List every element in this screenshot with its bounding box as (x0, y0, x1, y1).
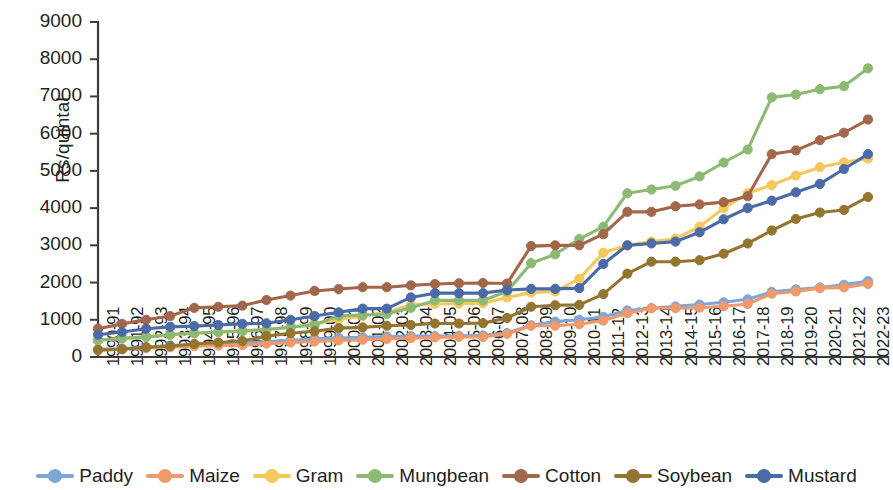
data-point (214, 302, 223, 311)
data-point (382, 321, 391, 330)
data-point (623, 207, 632, 216)
data-point (430, 289, 439, 298)
data-point (647, 304, 656, 313)
legend-item-paddy[interactable]: Paddy (36, 465, 133, 487)
data-point (839, 205, 848, 214)
data-point (286, 291, 295, 300)
data-point (358, 335, 367, 344)
legend-item-soybean[interactable]: Soybean (614, 465, 732, 487)
legend-swatch-icon (356, 469, 394, 483)
data-point (791, 171, 800, 180)
data-point (142, 324, 151, 333)
data-point (839, 128, 848, 137)
data-point (478, 319, 487, 328)
data-point (575, 241, 584, 250)
data-point (142, 315, 151, 324)
data-point (719, 302, 728, 311)
data-point (623, 241, 632, 250)
data-point (695, 256, 704, 265)
data-point (719, 158, 728, 167)
legend-item-mustard[interactable]: Mustard (745, 465, 857, 487)
data-point (117, 345, 126, 354)
legend-label: Maize (189, 465, 240, 487)
legend-dot (757, 469, 771, 483)
data-point (430, 279, 439, 288)
data-point (623, 189, 632, 198)
data-point (767, 226, 776, 235)
data-point (767, 289, 776, 298)
data-point (93, 330, 102, 339)
data-point (791, 214, 800, 223)
legend-swatch-icon (745, 469, 783, 483)
data-point (623, 309, 632, 318)
data-point (791, 146, 800, 155)
data-point (406, 334, 415, 343)
legend-swatch-icon (614, 469, 652, 483)
data-point (334, 336, 343, 345)
data-point (334, 308, 343, 317)
data-point (454, 319, 463, 328)
legend-label: Soybean (657, 465, 732, 487)
data-point (815, 136, 824, 145)
data-point (286, 329, 295, 338)
data-point (599, 289, 608, 298)
data-point (767, 93, 776, 102)
legend-dot (626, 469, 640, 483)
data-point (743, 239, 752, 248)
data-point (166, 311, 175, 320)
data-point (527, 302, 536, 311)
data-point (478, 278, 487, 287)
legend-dot (48, 469, 62, 483)
data-point (190, 303, 199, 312)
data-point (671, 304, 680, 313)
data-point (695, 200, 704, 209)
legend-item-cotton[interactable]: Cotton (502, 465, 601, 487)
legend-label: Gram (296, 465, 344, 487)
data-point (406, 281, 415, 290)
legend-dot (514, 469, 528, 483)
data-point (743, 299, 752, 308)
data-point (599, 230, 608, 239)
data-point (839, 283, 848, 292)
legend-item-maize[interactable]: Maize (146, 465, 240, 487)
data-point (502, 329, 511, 338)
data-point (527, 241, 536, 250)
data-point (478, 332, 487, 341)
data-point (142, 343, 151, 352)
data-point (527, 284, 536, 293)
data-point (190, 339, 199, 348)
legend-dot (265, 469, 279, 483)
data-point (839, 82, 848, 91)
data-point (863, 279, 872, 288)
data-point (815, 208, 824, 217)
legend-swatch-icon (253, 469, 291, 483)
legend-swatch-icon (36, 469, 74, 483)
data-point (310, 311, 319, 320)
data-point (575, 300, 584, 309)
data-point (430, 333, 439, 342)
plot-area (0, 0, 893, 490)
data-point (166, 342, 175, 351)
data-point (671, 257, 680, 266)
legend-label: Mustard (788, 465, 857, 487)
data-point (719, 198, 728, 207)
legend-item-mungbean[interactable]: Mungbean (356, 465, 489, 487)
data-point (358, 283, 367, 292)
data-point (767, 196, 776, 205)
data-point (575, 320, 584, 329)
data-point (214, 320, 223, 329)
data-point (238, 301, 247, 310)
data-point (262, 295, 271, 304)
data-point (454, 279, 463, 288)
legend-label: Paddy (79, 465, 133, 487)
data-point (791, 188, 800, 197)
data-point (743, 204, 752, 213)
data-point (767, 180, 776, 189)
data-point (238, 319, 247, 328)
data-point (599, 248, 608, 257)
legend-item-gram[interactable]: Gram (253, 465, 344, 487)
data-point (262, 332, 271, 341)
data-point (719, 215, 728, 224)
data-point (262, 319, 271, 328)
data-point (575, 274, 584, 283)
